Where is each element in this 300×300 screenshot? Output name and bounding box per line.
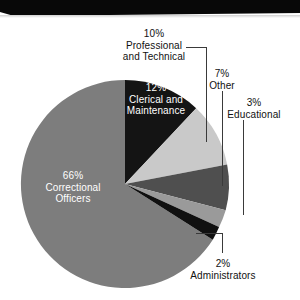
label-professional-and-technical: 10% Professional and Technical: [112, 28, 196, 63]
label-educational-pct: 3%: [214, 97, 294, 109]
label-clerical-pct: 12%: [116, 82, 196, 94]
label-professional-line2: and Technical: [112, 51, 196, 63]
label-clerical-line1: Clerical and: [116, 94, 196, 106]
figure-canvas: 10% Professional and Technical 7% Other …: [0, 0, 300, 300]
label-clerical-and-maintenance: 12% Clerical and Maintenance: [116, 82, 196, 117]
label-other-line1: Other: [191, 80, 253, 92]
label-correctional-line2: Officers: [32, 193, 114, 205]
label-administrators: 2% Administrators: [183, 258, 263, 281]
label-administrators-line1: Administrators: [183, 270, 263, 282]
label-educational: 3% Educational: [214, 97, 294, 120]
label-professional-pct: 10%: [112, 28, 196, 40]
label-educational-line1: Educational: [214, 109, 294, 121]
label-correctional-officers: 66% Correctional Officers: [32, 170, 114, 205]
label-correctional-line1: Correctional: [32, 182, 114, 194]
label-other: 7% Other: [191, 68, 253, 91]
label-clerical-line2: Maintenance: [116, 105, 196, 117]
label-correctional-pct: 66%: [32, 170, 114, 182]
label-professional-line1: Professional: [112, 40, 196, 52]
label-administrators-pct: 2%: [183, 258, 263, 270]
label-other-pct: 7%: [191, 68, 253, 80]
